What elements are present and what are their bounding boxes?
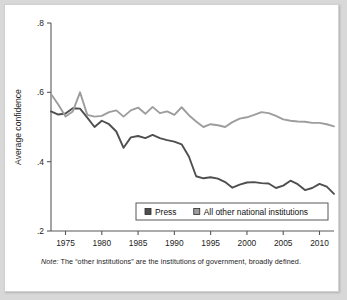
line-chart: .2.4.6.819751980198519901995200020052010… <box>5 5 340 253</box>
legend-swatch-1 <box>194 209 200 215</box>
figure-card: .2.4.6.819751980198519901995200020052010… <box>4 4 339 292</box>
note-label: Note: <box>41 257 59 266</box>
y-axis-label: Average confidence <box>13 89 23 165</box>
x-tick-label: 1975 <box>56 238 75 248</box>
chart-plot-area: .2.4.6.819751980198519901995200020052010… <box>5 5 340 253</box>
x-tick-label: 1995 <box>201 238 220 248</box>
note-body: The “other institutions” are the institu… <box>59 257 301 266</box>
x-tick-label: 1990 <box>165 238 184 248</box>
y-tick-label: .2 <box>37 226 44 236</box>
legend-swatch-0 <box>145 209 151 215</box>
x-tick-label: 2005 <box>274 238 293 248</box>
x-tick-label: 2010 <box>310 238 329 248</box>
y-tick-label: .8 <box>37 18 44 28</box>
x-tick-label: 1980 <box>92 238 111 248</box>
series-line-other <box>51 92 334 127</box>
legend-label-0: Press <box>155 207 176 217</box>
x-tick-label: 1985 <box>129 238 148 248</box>
legend-label-1: All other national institutions <box>204 207 308 217</box>
y-tick-label: .4 <box>37 157 44 167</box>
x-tick-label: 2000 <box>238 238 257 248</box>
figure-note: Note: The “other institutions” are the i… <box>41 257 325 267</box>
y-tick-label: .6 <box>37 87 44 97</box>
